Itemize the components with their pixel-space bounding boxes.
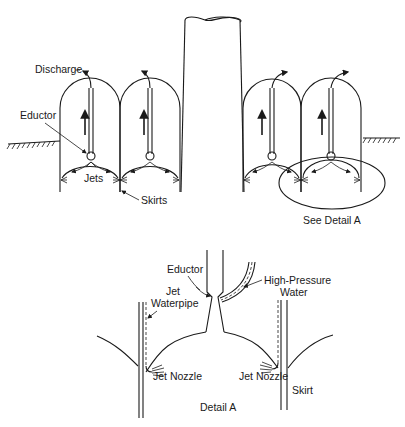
detail-a-view: Eductor High-Pressure Water Jet Waterpip… [97, 250, 333, 418]
ground-left [7, 141, 60, 149]
label-skirts: Skirts [141, 194, 167, 206]
label-detail-eductor: Eductor [167, 263, 204, 275]
label-see-detail-a: See Detail A [303, 214, 361, 226]
skirt-left [139, 302, 164, 418]
label-high-pressure-water: Water [280, 286, 308, 298]
label-eductor: Eductor [20, 109, 57, 121]
ground-right [363, 138, 400, 143]
label-waterpipe: Waterpipe [151, 297, 199, 309]
high-pressure-pipe [220, 262, 262, 302]
label-detail-a-title: Detail A [200, 401, 236, 413]
caisson-eductor-diagram: Discharge Eductor Jets Skirts See Detail… [0, 0, 405, 427]
caisson-right-1 [243, 72, 301, 192]
label-discharge: Discharge [35, 63, 82, 75]
upper-view: Discharge Eductor Jets Skirts See Detail… [7, 17, 400, 226]
label-jet-nozzle-left: Jet Nozzle [153, 370, 202, 382]
label-high-pressure: High-Pressure [264, 274, 331, 286]
caisson-right-2 [294, 72, 361, 192]
caisson-left-2 [113, 71, 180, 192]
label-jets: Jets [84, 172, 103, 184]
outer-arc-left [97, 336, 138, 366]
dome-arc-right [224, 332, 278, 368]
central-column [181, 17, 244, 192]
label-skirt: Skirt [292, 384, 313, 396]
label-jet-nozzle-right: Jet Nozzle [239, 370, 288, 382]
skirt-right [260, 300, 287, 410]
dome-arc-left [146, 332, 206, 372]
outer-arc-right [288, 335, 333, 368]
label-jet: Jet [166, 285, 180, 297]
